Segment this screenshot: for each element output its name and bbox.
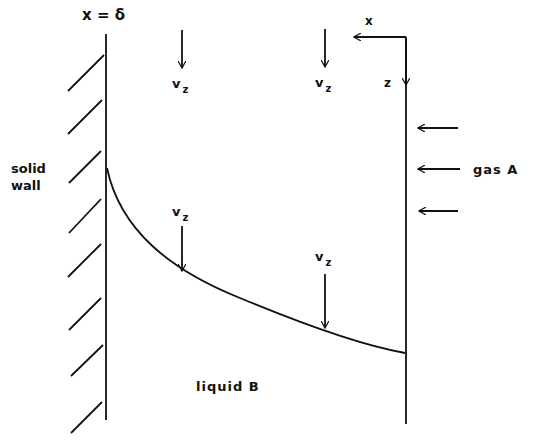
velocity-label-2: vz	[315, 76, 331, 89]
boundary-label: x = δ	[82, 8, 125, 23]
axis-x-label: x	[365, 15, 373, 27]
diagram-drawing	[0, 0, 536, 444]
solid-wall-label-line2: wall	[11, 179, 41, 192]
velocity-label-1: vz	[172, 77, 188, 90]
liquid-label: liquid B	[196, 380, 260, 393]
wall-hatching	[68, 55, 104, 433]
falling-film-diagram: x = δ solid wall x z gas A liquid B vz v…	[0, 0, 536, 444]
velocity-label-3: vz	[172, 205, 188, 218]
axis-z-label: z	[384, 77, 391, 89]
gas-label: gas A	[473, 163, 518, 176]
solid-wall-label-line1: solid	[11, 162, 46, 175]
velocity-label-4: vz	[315, 250, 331, 263]
film-surface-curve	[107, 168, 405, 353]
